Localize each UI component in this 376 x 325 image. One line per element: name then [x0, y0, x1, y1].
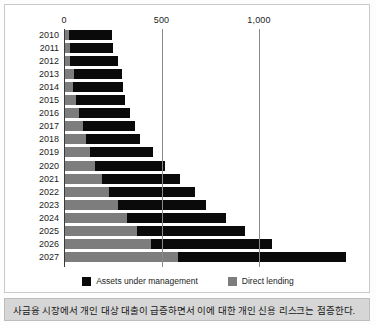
y-axis-category-label: 2016	[23, 108, 59, 119]
bar-row: 2013	[5, 68, 371, 81]
bar-segment-direct-lending	[65, 134, 86, 144]
stacked-bar	[65, 174, 180, 184]
y-axis-category-label: 2019	[23, 147, 59, 158]
y-axis-category-label: 2021	[23, 174, 59, 185]
bar-segment-direct-lending	[65, 43, 70, 53]
bar-segment-direct-lending	[65, 121, 83, 131]
plot-area: 05001,000 201020112012201320142015201620…	[5, 5, 371, 294]
legend-label: Assets under management	[96, 276, 198, 286]
bar-row: 2021	[5, 173, 371, 186]
bar-row: 2018	[5, 133, 371, 146]
bar-segment-direct-lending	[65, 226, 137, 236]
axis-zero-line	[64, 29, 65, 267]
bar-row: 2020	[5, 160, 371, 173]
stacked-bar	[65, 43, 113, 53]
bar-segment-direct-lending	[65, 187, 109, 197]
stacked-bar	[65, 121, 135, 131]
bar-row: 2027	[5, 251, 371, 264]
bar-row: 2022	[5, 186, 371, 199]
bar-segment-direct-lending	[65, 108, 79, 118]
y-axis-category-label: 2020	[23, 161, 59, 172]
bar-row: 2023	[5, 199, 371, 212]
bar-row: 2026	[5, 238, 371, 251]
y-axis-category-label: 2014	[23, 82, 59, 93]
bar-rows-container: 2010201120122013201420152016201720182019…	[5, 5, 371, 294]
bar-segment-direct-lending	[65, 161, 95, 171]
y-axis-category-label: 2023	[23, 200, 59, 211]
stacked-bar	[65, 213, 226, 223]
bar-row: 2012	[5, 55, 371, 68]
bar-segment-direct-lending	[65, 69, 74, 79]
chart-frame: 05001,000 201020112012201320142015201620…	[4, 4, 370, 293]
bar-segment-direct-lending	[65, 174, 102, 184]
y-axis-category-label: 2025	[23, 226, 59, 237]
stacked-bar	[65, 95, 125, 105]
y-axis-category-label: 2013	[23, 69, 59, 80]
bar-segment-direct-lending	[65, 30, 69, 40]
caption-text: 사금융 시장에서 개인 대상 대출이 급증하면서 이에 대한 개인 신용 리스크…	[5, 303, 355, 317]
stacked-bar	[65, 187, 195, 197]
gridline	[259, 29, 260, 267]
chart-legend: Assets under managementDirect lending	[5, 276, 371, 286]
stacked-bar	[65, 30, 112, 40]
y-axis-category-label: 2018	[23, 134, 59, 145]
bar-segment-direct-lending	[65, 56, 70, 66]
bar-row: 2019	[5, 146, 371, 159]
stacked-bar	[65, 239, 272, 249]
bar-row: 2015	[5, 94, 371, 107]
legend-label: Direct lending	[242, 276, 294, 286]
stacked-bar	[65, 147, 153, 157]
y-axis-category-label: 2015	[23, 95, 59, 106]
legend-item: Direct lending	[228, 276, 294, 286]
stacked-bar	[65, 161, 165, 171]
stacked-bar	[65, 252, 346, 262]
chart-figure-root: 05001,000 201020112012201320142015201620…	[0, 0, 376, 325]
y-axis-category-label: 2012	[23, 56, 59, 67]
bar-row: 2025	[5, 225, 371, 238]
gray-square-icon	[228, 277, 237, 286]
bar-segment-direct-lending	[65, 213, 127, 223]
stacked-bar	[65, 226, 245, 236]
bar-row: 2011	[5, 42, 371, 55]
black-square-icon	[82, 277, 91, 286]
bar-row: 2024	[5, 212, 371, 225]
bar-segment-direct-lending	[65, 147, 90, 157]
y-axis-category-label: 2026	[23, 239, 59, 250]
stacked-bar	[65, 108, 130, 118]
stacked-bar	[65, 200, 206, 210]
bar-segment-direct-lending	[65, 95, 76, 105]
y-axis-category-label: 2017	[23, 121, 59, 132]
bar-row: 2017	[5, 120, 371, 133]
bar-row: 2010	[5, 29, 371, 42]
stacked-bar	[65, 134, 140, 144]
y-axis-category-label: 2010	[23, 30, 59, 41]
bar-segment-direct-lending	[65, 200, 118, 210]
y-axis-category-label: 2011	[23, 43, 59, 54]
legend-item: Assets under management	[82, 276, 198, 286]
y-axis-category-label: 2024	[23, 213, 59, 224]
y-axis-category-label: 2027	[23, 252, 59, 263]
bar-row: 2016	[5, 107, 371, 120]
stacked-bar	[65, 69, 122, 79]
caption-bar: 사금융 시장에서 개인 대상 대출이 급증하면서 이에 대한 개인 신용 리스크…	[4, 298, 370, 321]
y-axis-category-label: 2022	[23, 187, 59, 198]
gridline	[162, 29, 163, 267]
stacked-bar	[65, 56, 118, 66]
bar-row: 2014	[5, 81, 371, 94]
bar-segment-direct-lending	[65, 239, 151, 249]
stacked-bar	[65, 82, 123, 92]
bar-segment-direct-lending	[65, 82, 73, 92]
